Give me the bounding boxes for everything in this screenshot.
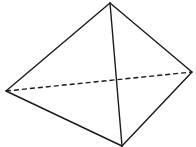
edge-left-bottom [6, 91, 122, 146]
tetrahedron-diagram [0, 0, 196, 147]
edge-right-bottom [122, 72, 192, 146]
hidden-edge-left-right [6, 72, 192, 91]
edge-top-bottom [110, 3, 122, 146]
edge-top-right [110, 3, 192, 72]
edge-top-left [6, 3, 110, 91]
